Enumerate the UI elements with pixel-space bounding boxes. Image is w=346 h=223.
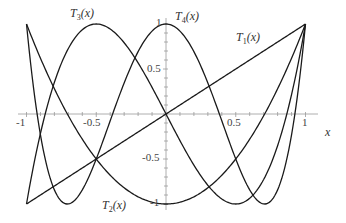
label-arg: (x) <box>113 198 126 212</box>
series-label-t3: T3(x) <box>70 6 94 22</box>
x-tick-label: -0.5 <box>83 116 100 128</box>
series-label-t2: T2(x) <box>102 198 126 214</box>
label-main: T <box>102 198 109 212</box>
x-tick-label: 1 <box>302 116 308 128</box>
y-tick-label: -0.5 <box>142 151 159 163</box>
label-arg: (x) <box>81 6 94 20</box>
label-main: T <box>70 6 77 20</box>
y-tick-label: -1 <box>150 196 159 208</box>
series-label-t4: T4(x) <box>175 9 199 25</box>
label-arg: (x) <box>186 9 199 23</box>
series-label-t1: T1(x) <box>236 30 260 46</box>
chart-plot-area <box>0 0 346 223</box>
y-tick-label: 0.5 <box>147 62 161 74</box>
label-main: T <box>175 9 182 23</box>
label-arg: (x) <box>247 30 260 44</box>
y-tick-label: 1 <box>156 16 162 28</box>
label-main: T <box>236 30 243 44</box>
x-tick-label: 0.5 <box>227 116 241 128</box>
x-tick-label: -1 <box>16 116 25 128</box>
x-axis-label: x <box>325 125 330 140</box>
